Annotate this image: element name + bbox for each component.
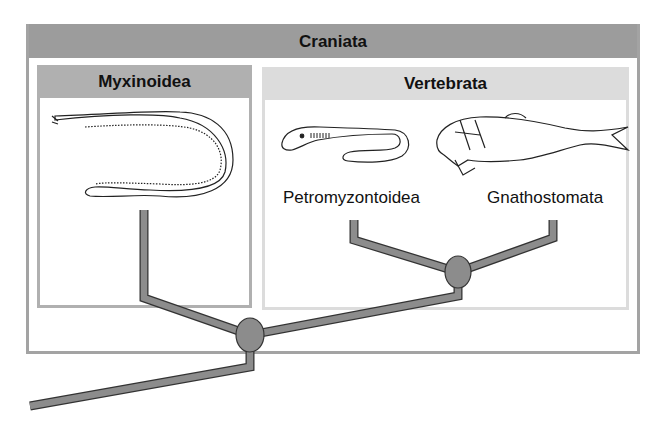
craniata-node xyxy=(236,318,264,352)
lamprey-illustration xyxy=(282,127,409,162)
cladogram-branches xyxy=(30,210,553,406)
vertebrata-node xyxy=(445,256,471,288)
jawed-fish-illustration xyxy=(437,114,628,176)
cladogram-drawing xyxy=(0,0,670,431)
hagfish-illustration xyxy=(52,112,233,197)
